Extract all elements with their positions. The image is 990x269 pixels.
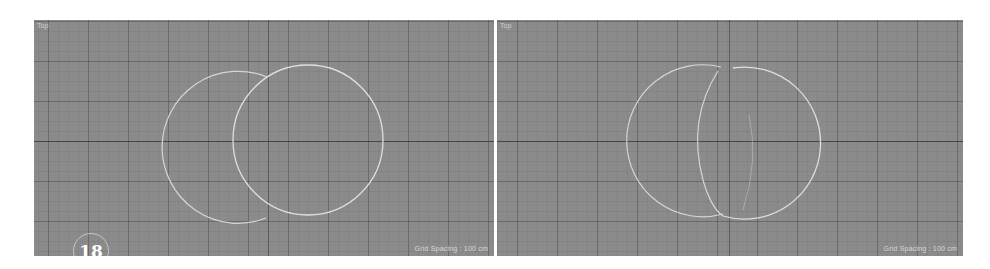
- spline-shapes: [34, 20, 494, 256]
- circle-right[interactable]: [233, 65, 383, 215]
- circle-left[interactable]: [162, 71, 267, 223]
- viewport-left[interactable]: Top Grid Spacing : 100 cm 18: [34, 20, 494, 256]
- spline-shapes: [497, 20, 963, 256]
- merged-spline-inner[interactable]: [698, 71, 723, 216]
- grid-spacing-status: Grid Spacing : 100 cm: [884, 245, 957, 252]
- grid-spacing-status: Grid Spacing : 100 cm: [415, 245, 488, 252]
- merged-spline-right[interactable]: [723, 67, 821, 219]
- merged-spline-faint-arc: [743, 115, 753, 210]
- viewport-right[interactable]: Top Grid Spacing : 100 cm: [497, 20, 963, 256]
